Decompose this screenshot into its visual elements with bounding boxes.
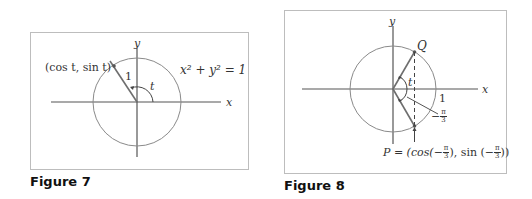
y-axis-label: y — [389, 16, 395, 27]
angle-label: t — [408, 77, 412, 88]
point-P-label: P = (cos(−π3), sin (−π3)) — [383, 145, 509, 160]
radius-label: 1 — [439, 93, 446, 104]
angle-arc-neg — [400, 89, 407, 101]
figure-8-caption: Figure 8 — [284, 178, 345, 193]
neg-angle-label: −π3 — [431, 109, 447, 124]
unit-circle-diagram-8 — [0, 0, 532, 199]
p-pointer-arrowhead — [413, 127, 417, 131]
radius-to-P — [393, 89, 415, 126]
figure-8: y x Q t 1 −π3 P = (cos(−π3), sin (−π3)) … — [0, 0, 532, 199]
x-axis-label: x — [482, 84, 488, 95]
point-Q-label: Q — [417, 40, 427, 52]
angle-arc-t — [400, 77, 407, 89]
